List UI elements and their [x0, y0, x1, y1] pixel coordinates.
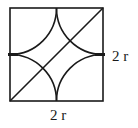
- diagonal-line: [10, 8, 103, 101]
- arc-top-left: [10, 8, 57, 55]
- square-arcs-diagram: [0, 0, 138, 128]
- right-side-length-label: 2 r: [112, 49, 128, 64]
- bottom-side-length-label: 2 r: [50, 108, 66, 123]
- arc-bottom-right: [57, 55, 104, 102]
